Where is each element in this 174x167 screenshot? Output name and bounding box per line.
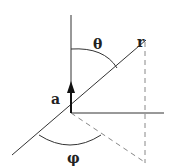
r-label: r	[137, 34, 145, 50]
projection-plane-dashed	[71, 113, 146, 163]
theta-label: θ	[93, 36, 102, 52]
phi-label: φ	[67, 150, 80, 166]
phi-arc	[39, 135, 101, 145]
spherical-coordinates-diagram: θ r a φ	[0, 0, 174, 167]
r-line	[12, 40, 146, 155]
a-label: a	[51, 91, 60, 107]
vector-a-arrowhead-icon	[67, 81, 75, 93]
